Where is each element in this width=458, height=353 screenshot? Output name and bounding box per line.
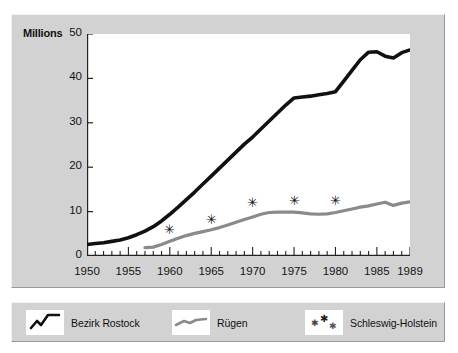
legend-item-schleswig-holstein[interactable]: ✱ ✱ ✱ Schleswig-Holstein	[305, 309, 437, 336]
x-axis-tick-1965: 1965	[198, 265, 224, 277]
x-axis-tick-1989: 1989	[397, 265, 423, 277]
chart-figure: Millions 01020304050 1950195519601965197…	[0, 0, 458, 353]
legend-item-ruegen[interactable]: Rügen	[172, 309, 247, 336]
x-axis-tick-1970: 1970	[240, 265, 266, 277]
svg-text:✱: ✱	[320, 313, 328, 324]
y-axis-tick-30: 30	[58, 115, 82, 127]
legend-line-icon-bezirk-rostock	[26, 310, 64, 335]
chart-panel: Millions 01020304050 1950195519601965197…	[11, 14, 445, 288]
y-axis-tick-0: 0	[58, 248, 82, 260]
legend-label-bezirk-rostock: Bezirk Rostock	[71, 317, 140, 329]
marker-schleswig-holstein-1960: ✳	[164, 222, 175, 237]
x-axis-tick-1985: 1985	[364, 265, 390, 277]
legend-line-icon-ruegen	[172, 310, 210, 335]
marker-schleswig-holstein-1965: ✳	[206, 212, 217, 227]
x-axis-tick-1950: 1950	[74, 265, 100, 277]
svg-text:✱: ✱	[311, 318, 319, 328]
legend-panel: Bezirk Rostock Rügen ✱ ✱ ✱ Schleswig-Hol…	[11, 302, 445, 342]
y-axis-tick-10: 10	[58, 204, 82, 216]
x-axis-tick-1955: 1955	[116, 265, 142, 277]
x-axis-tick-1975: 1975	[281, 265, 307, 277]
x-axis-tick-labels: 195019551960196519701975198019851989	[12, 265, 446, 287]
y-axis-tick-50: 50	[58, 26, 82, 38]
marker-schleswig-holstein-1980: ✳	[330, 193, 341, 208]
y-axis-tick-40: 40	[58, 70, 82, 82]
legend-asterisk-icon-schleswig-holstein: ✱ ✱ ✱	[305, 310, 343, 335]
legend-label-schleswig-holstein: Schleswig-Holstein	[350, 317, 437, 329]
plot-svg: ✳✳✳✳✳	[87, 34, 410, 256]
marker-schleswig-holstein-1975: ✳	[289, 193, 300, 208]
svg-text:✱: ✱	[329, 321, 337, 331]
series-line-bezirk-rostock	[87, 50, 410, 244]
legend-label-ruegen: Rügen	[217, 317, 247, 329]
x-axis-tick-1980: 1980	[323, 265, 349, 277]
plot-area: ✳✳✳✳✳	[87, 34, 410, 256]
y-axis-tick-20: 20	[58, 159, 82, 171]
legend-item-bezirk-rostock[interactable]: Bezirk Rostock	[26, 309, 140, 336]
series-line-ruegen	[145, 202, 410, 248]
x-axis-tick-1960: 1960	[157, 265, 183, 277]
marker-schleswig-holstein-1970: ✳	[247, 195, 258, 210]
y-axis-tick-labels: 01020304050	[56, 15, 82, 289]
